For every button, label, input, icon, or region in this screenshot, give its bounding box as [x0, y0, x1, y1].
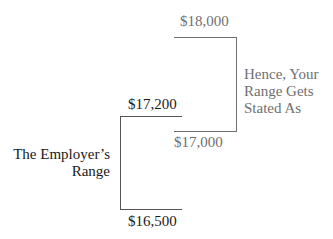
employer-range-bracket-line	[120, 116, 121, 210]
your-range-label: Hence, Your Range Gets Stated As	[244, 66, 319, 117]
your-range-label-line1: Hence, Your	[244, 66, 319, 83]
employer-range-top-line	[120, 116, 182, 117]
employer-range-label: The Employer’s Range	[13, 146, 110, 180]
employer-range-bottom-line	[120, 209, 182, 210]
employer-range-low-value: $16,500	[128, 213, 177, 230]
your-range-bracket-line	[236, 37, 237, 132]
your-range-high-value: $18,000	[180, 13, 229, 30]
your-range-label-line3: Stated As	[244, 100, 319, 117]
employer-range-high-value: $17,200	[128, 96, 177, 113]
employer-range-label-line1: The Employer’s	[13, 146, 110, 163]
your-range-label-line2: Range Gets	[244, 83, 319, 100]
your-range-low-value: $17,000	[174, 134, 223, 151]
employer-range-label-line2: Range	[13, 163, 110, 180]
your-range-top-line	[174, 37, 237, 38]
your-range-bottom-line	[174, 131, 237, 132]
